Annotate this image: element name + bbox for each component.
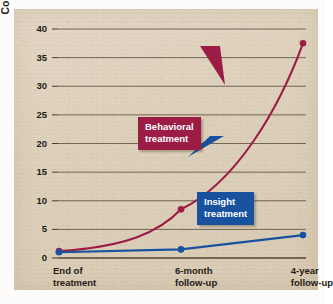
- x-axis-tick-label-line: treatment: [53, 277, 96, 289]
- x-axis-tick-label-line: follow-up: [175, 277, 217, 289]
- y-axis-title-text: Couples divorced (percentage): [0, 0, 11, 15]
- x-axis-tick-label: End oftreatment: [53, 265, 96, 288]
- x-axis-tick-label-line: End of: [53, 265, 96, 277]
- y-axis-tick-label: 10: [21, 195, 47, 206]
- data-point: [56, 249, 63, 256]
- annotation-behavioral-line-1: Behavioral: [145, 121, 194, 133]
- y-axis-tick-label: 30: [21, 80, 47, 91]
- x-axis-tick-label-line: follow-up: [291, 277, 333, 289]
- y-axis-tick-label: 25: [21, 109, 47, 120]
- data-point: [178, 206, 185, 213]
- y-axis-tick-label: 35: [21, 52, 47, 63]
- annotation-insight-line-1: Insight: [204, 196, 247, 208]
- annotation-insight-treatment: Insight treatment: [197, 192, 254, 225]
- x-axis-tick-label-line: 6-month: [175, 265, 217, 277]
- y-axis-tick-label: 40: [21, 23, 47, 34]
- x-axis-tick-label-line: 4-year: [291, 265, 333, 277]
- x-axis-tick-label: 4-yearfollow-up: [291, 265, 333, 288]
- data-point: [300, 232, 307, 239]
- behavioral-callout-tail: [200, 46, 225, 85]
- y-axis-tick-label: 20: [21, 138, 47, 149]
- data-point: [300, 40, 307, 47]
- annotation-behavioral-line-2: treatment: [145, 133, 194, 145]
- annotation-behavioral-treatment: Behavioral treatment: [138, 117, 201, 150]
- x-axis-tick-label: 6-monthfollow-up: [175, 265, 217, 288]
- annotation-insight-line-2: treatment: [204, 208, 247, 220]
- y-axis-tick-label: 0: [21, 252, 47, 263]
- data-point: [178, 246, 185, 253]
- y-axis-tick-label: 5: [21, 223, 47, 234]
- y-axis-tick-label: 15: [21, 166, 47, 177]
- y-axis-title: Couples divorced (percentage): [0, 0, 13, 44]
